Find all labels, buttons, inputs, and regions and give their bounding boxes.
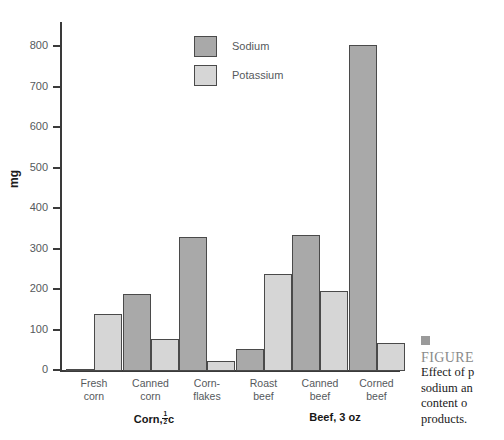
bar-sodium-corn-flakes [179,237,207,371]
category-label-corned-beef: Cornedbeef [344,377,410,403]
caption-bullet-icon [421,336,430,345]
bar-sodium-roast-beef [236,349,264,371]
group-label-corn-suffix: c [168,413,174,425]
bar-chart-plot-area: mg 0100200300400500600700800 FreshcornCa… [0,0,400,440]
legend-label-potassium: Potassium [232,69,283,81]
category-label-line: beef [344,390,410,403]
caption-title: FIGURE [421,350,504,365]
group-label-corn: Corn,12c [84,411,224,425]
legend-swatch-sodium [194,36,217,57]
figure-caption: FIGURE Effect of p sodium an content o p… [421,336,504,427]
bar-potassium-corn-flakes [207,361,235,371]
legend-label-sodium: Sodium [232,40,269,52]
category-label-line: Corned [344,377,410,390]
bar-sodium-canned-corn [123,294,151,371]
bar-potassium-canned-corn [151,339,179,371]
bar-sodium-canned-beef [292,235,320,371]
caption-line-4: products. [421,412,504,428]
legend-swatch-potassium [194,65,217,86]
bar-potassium-corned-beef [377,343,405,371]
figure-root: mg 0100200300400500600700800 FreshcornCa… [0,0,504,440]
group-label-beef: Beef, 3 oz [265,411,405,423]
caption-line-3: content o [421,396,504,412]
bar-potassium-fresh-corn [94,314,122,371]
bar-sodium-fresh-corn [66,369,94,371]
caption-line-2: sodium an [421,381,504,397]
bar-sodium-corned-beef [349,45,377,371]
bar-potassium-canned-beef [320,291,348,371]
group-label-corn-prefix: Corn, [134,413,163,425]
caption-line-1: Effect of p [421,365,504,381]
bar-potassium-roast-beef [264,274,292,371]
